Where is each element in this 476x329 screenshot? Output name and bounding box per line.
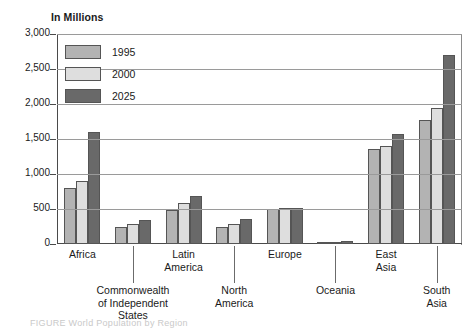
figure-caption: FIGURE World Population by Region xyxy=(30,318,188,328)
bar xyxy=(317,242,329,244)
chart-axis-title: In Millions xyxy=(51,11,103,23)
bar xyxy=(443,55,455,244)
bar xyxy=(392,134,404,244)
gridline xyxy=(57,34,462,35)
bar xyxy=(127,224,139,244)
y-tick-mark xyxy=(50,69,56,70)
bar xyxy=(368,149,380,244)
bar xyxy=(279,208,291,244)
population-bar-chart-figure: In Millions 3,0002,5002,0001,5001,000500… xyxy=(0,0,476,329)
bar xyxy=(139,220,151,244)
gridline xyxy=(57,209,462,210)
legend-swatch xyxy=(65,89,101,103)
legend-label: 2000 xyxy=(112,68,135,80)
legend-swatch xyxy=(65,45,101,59)
category-label: South Asia xyxy=(377,284,476,309)
y-axis-tick-marks xyxy=(0,34,57,244)
legend-label: 1995 xyxy=(112,46,135,58)
bar xyxy=(240,219,252,244)
y-tick-mark xyxy=(50,139,56,140)
bar xyxy=(166,210,178,244)
bar xyxy=(267,209,279,244)
bar xyxy=(88,132,100,244)
bar xyxy=(228,224,240,244)
y-tick-mark xyxy=(50,244,56,245)
label-leader-line xyxy=(437,246,438,283)
bar xyxy=(291,208,303,244)
y-tick-mark xyxy=(50,34,56,35)
legend-swatch xyxy=(65,67,101,81)
legend-item: 1995 xyxy=(65,44,175,61)
legend-label: 2025 xyxy=(112,90,135,102)
gridline xyxy=(57,174,462,175)
bar xyxy=(216,227,228,244)
bar xyxy=(190,196,202,244)
bar xyxy=(329,242,341,244)
bar xyxy=(380,146,392,244)
y-tick-mark xyxy=(50,209,56,210)
y-tick-mark xyxy=(50,174,56,175)
bar xyxy=(115,227,127,245)
bar xyxy=(64,188,76,244)
y-tick-mark xyxy=(50,104,56,105)
chart-legend: 199520002025 xyxy=(65,44,175,110)
bar xyxy=(76,181,88,244)
category-label: East Asia xyxy=(326,248,446,273)
legend-item: 2025 xyxy=(65,88,175,105)
legend-item: 2000 xyxy=(65,66,175,83)
bar xyxy=(341,241,353,244)
gridline xyxy=(57,139,462,140)
bar xyxy=(431,108,443,245)
